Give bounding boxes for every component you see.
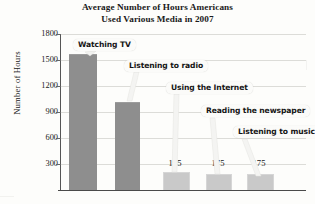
callout-listening-to-music: Listening to music: [233, 126, 315, 138]
leader-watching-tv: [85, 51, 96, 56]
leader-listening-to-music: [242, 139, 261, 176]
callout-leader-lines: [0, 0, 315, 204]
bar-chart: Average Number of Hours Americans Used V…: [0, 0, 315, 204]
leader-reading-the-newspaper: [210, 118, 220, 174]
callout-watching-tv: Watching TV: [73, 39, 136, 51]
callout-listening-to-radio: Listening to radio: [124, 60, 208, 72]
leader-using-the-internet: [172, 94, 179, 172]
leader-listening-to-radio: [127, 72, 139, 101]
callout-reading-the-newspaper: Reading the newspaper: [201, 105, 310, 117]
callout-using-the-internet: Using the Internet: [166, 82, 253, 94]
